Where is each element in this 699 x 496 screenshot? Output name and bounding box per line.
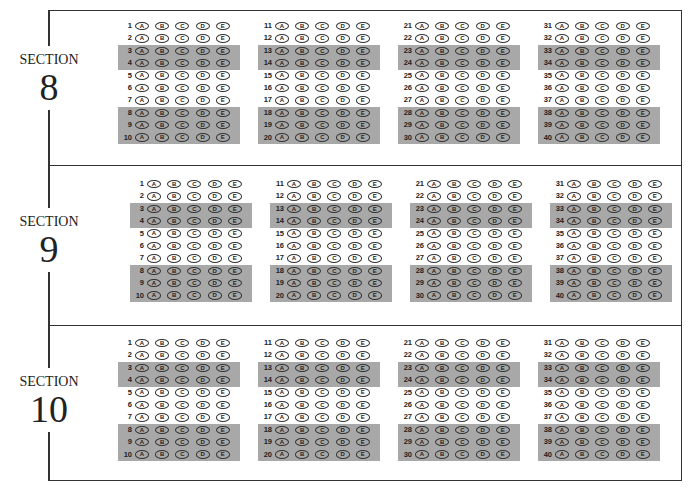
answer-bubble-d[interactable]: D xyxy=(628,229,642,238)
answer-bubble-b[interactable]: B xyxy=(435,109,449,118)
answer-bubble-e[interactable]: E xyxy=(368,205,382,214)
answer-bubble-a[interactable]: A xyxy=(147,217,161,226)
answer-bubble-c[interactable]: C xyxy=(467,205,481,214)
answer-bubble-b[interactable]: B xyxy=(155,84,169,93)
answer-bubble-e[interactable]: E xyxy=(496,351,510,360)
answer-bubble-b[interactable]: B xyxy=(587,254,601,263)
answer-bubble-e[interactable]: E xyxy=(636,109,650,118)
answer-bubble-a[interactable]: A xyxy=(275,22,289,31)
answer-bubble-c[interactable]: C xyxy=(595,133,609,142)
answer-bubble-b[interactable]: B xyxy=(447,180,461,189)
answer-bubble-a[interactable]: A xyxy=(415,47,429,56)
answer-bubble-d[interactable]: D xyxy=(488,229,502,238)
answer-bubble-d[interactable]: D xyxy=(196,388,210,397)
answer-bubble-d[interactable]: D xyxy=(476,84,490,93)
answer-bubble-c[interactable]: C xyxy=(455,426,469,435)
answer-bubble-c[interactable]: C xyxy=(187,267,201,276)
answer-bubble-a[interactable]: A xyxy=(275,133,289,142)
answer-bubble-a[interactable]: A xyxy=(147,279,161,288)
answer-bubble-e[interactable]: E xyxy=(356,388,370,397)
answer-bubble-e[interactable]: E xyxy=(496,71,510,80)
answer-bubble-d[interactable]: D xyxy=(196,59,210,68)
answer-bubble-b[interactable]: B xyxy=(435,22,449,31)
answer-bubble-a[interactable]: A xyxy=(287,267,301,276)
answer-bubble-a[interactable]: A xyxy=(135,401,149,410)
answer-bubble-d[interactable]: D xyxy=(336,376,350,385)
answer-bubble-c[interactable]: C xyxy=(175,121,189,130)
answer-bubble-a[interactable]: A xyxy=(135,450,149,459)
answer-bubble-b[interactable]: B xyxy=(167,279,181,288)
answer-bubble-e[interactable]: E xyxy=(228,217,242,226)
answer-bubble-c[interactable]: C xyxy=(315,71,329,80)
answer-bubble-d[interactable]: D xyxy=(476,413,490,422)
answer-bubble-b[interactable]: B xyxy=(295,59,309,68)
answer-bubble-b[interactable]: B xyxy=(307,254,321,263)
answer-bubble-e[interactable]: E xyxy=(368,217,382,226)
answer-bubble-b[interactable]: B xyxy=(575,109,589,118)
answer-bubble-d[interactable]: D xyxy=(476,109,490,118)
answer-bubble-b[interactable]: B xyxy=(575,450,589,459)
answer-bubble-d[interactable]: D xyxy=(476,133,490,142)
answer-bubble-e[interactable]: E xyxy=(368,192,382,201)
answer-bubble-a[interactable]: A xyxy=(415,84,429,93)
answer-bubble-c[interactable]: C xyxy=(315,133,329,142)
answer-bubble-e[interactable]: E xyxy=(356,71,370,80)
answer-bubble-c[interactable]: C xyxy=(175,364,189,373)
answer-bubble-c[interactable]: C xyxy=(455,59,469,68)
answer-bubble-a[interactable]: A xyxy=(275,339,289,348)
answer-bubble-a[interactable]: A xyxy=(275,364,289,373)
answer-bubble-a[interactable]: A xyxy=(275,351,289,360)
answer-bubble-a[interactable]: A xyxy=(275,426,289,435)
answer-bubble-a[interactable]: A xyxy=(147,267,161,276)
answer-bubble-e[interactable]: E xyxy=(636,71,650,80)
answer-bubble-d[interactable]: D xyxy=(488,217,502,226)
answer-bubble-d[interactable]: D xyxy=(488,291,502,300)
answer-bubble-a[interactable]: A xyxy=(135,339,149,348)
answer-bubble-c[interactable]: C xyxy=(315,438,329,447)
answer-bubble-c[interactable]: C xyxy=(595,388,609,397)
answer-bubble-c[interactable]: C xyxy=(467,217,481,226)
answer-bubble-d[interactable]: D xyxy=(208,229,222,238)
answer-bubble-c[interactable]: C xyxy=(467,279,481,288)
answer-bubble-d[interactable]: D xyxy=(196,450,210,459)
answer-bubble-d[interactable]: D xyxy=(336,339,350,348)
answer-bubble-d[interactable]: D xyxy=(476,438,490,447)
answer-bubble-b[interactable]: B xyxy=(155,59,169,68)
answer-bubble-c[interactable]: C xyxy=(467,192,481,201)
answer-bubble-c[interactable]: C xyxy=(175,109,189,118)
answer-bubble-c[interactable]: C xyxy=(315,339,329,348)
answer-bubble-c[interactable]: C xyxy=(175,84,189,93)
answer-bubble-c[interactable]: C xyxy=(187,180,201,189)
answer-bubble-b[interactable]: B xyxy=(155,34,169,43)
answer-bubble-e[interactable]: E xyxy=(648,192,662,201)
answer-bubble-b[interactable]: B xyxy=(167,217,181,226)
answer-bubble-e[interactable]: E xyxy=(356,438,370,447)
answer-bubble-a[interactable]: A xyxy=(555,401,569,410)
answer-bubble-e[interactable]: E xyxy=(636,450,650,459)
answer-bubble-b[interactable]: B xyxy=(447,254,461,263)
answer-bubble-c[interactable]: C xyxy=(175,59,189,68)
answer-bubble-b[interactable]: B xyxy=(155,133,169,142)
answer-bubble-a[interactable]: A xyxy=(135,364,149,373)
answer-bubble-e[interactable]: E xyxy=(356,84,370,93)
answer-bubble-e[interactable]: E xyxy=(356,59,370,68)
answer-bubble-a[interactable]: A xyxy=(555,388,569,397)
answer-bubble-e[interactable]: E xyxy=(216,401,230,410)
answer-bubble-c[interactable]: C xyxy=(315,34,329,43)
answer-bubble-d[interactable]: D xyxy=(628,279,642,288)
answer-bubble-b[interactable]: B xyxy=(575,121,589,130)
answer-bubble-a[interactable]: A xyxy=(275,84,289,93)
answer-bubble-c[interactable]: C xyxy=(595,121,609,130)
answer-bubble-b[interactable]: B xyxy=(435,438,449,447)
answer-bubble-b[interactable]: B xyxy=(435,376,449,385)
answer-bubble-c[interactable]: C xyxy=(595,450,609,459)
answer-bubble-b[interactable]: B xyxy=(435,339,449,348)
answer-bubble-d[interactable]: D xyxy=(476,47,490,56)
answer-bubble-b[interactable]: B xyxy=(167,205,181,214)
answer-bubble-d[interactable]: D xyxy=(348,291,362,300)
answer-bubble-c[interactable]: C xyxy=(455,364,469,373)
answer-bubble-d[interactable]: D xyxy=(628,254,642,263)
answer-bubble-b[interactable]: B xyxy=(155,22,169,31)
answer-bubble-c[interactable]: C xyxy=(315,84,329,93)
answer-bubble-b[interactable]: B xyxy=(447,205,461,214)
